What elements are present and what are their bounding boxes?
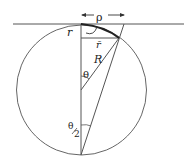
circle-geometry-diagram: ρ r r̄ R θ θ 2 xyxy=(0,0,194,168)
theta-half-numerator: θ xyxy=(68,121,73,131)
arc-r xyxy=(81,24,119,38)
rho-label: ρ xyxy=(96,11,102,24)
theta-half-denominator: 2 xyxy=(74,129,80,139)
r-label: r xyxy=(67,26,73,39)
R-label: R xyxy=(93,53,102,66)
theta-label: θ xyxy=(83,69,89,80)
chord-line xyxy=(81,24,124,155)
diagram-canvas: ρ r r̄ R θ θ 2 xyxy=(0,0,194,168)
r-bar-label: r̄ xyxy=(96,39,102,50)
rho-arrowhead-right xyxy=(120,13,125,17)
theta-half-arc xyxy=(81,125,91,126)
rho-arrowhead-left xyxy=(81,13,86,17)
r-pointer xyxy=(86,27,97,34)
